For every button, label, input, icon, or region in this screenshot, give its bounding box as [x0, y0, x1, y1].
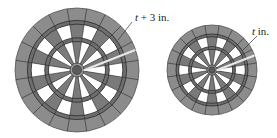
label-suffix: in.	[255, 25, 269, 37]
large-board-radius-label: t + 3 in.	[135, 12, 169, 23]
label-suffix: + 3 in.	[138, 11, 169, 23]
large-dartboard	[15, 8, 139, 132]
small-dartboard	[167, 25, 257, 115]
small-board-radius-label: t in.	[252, 26, 269, 37]
